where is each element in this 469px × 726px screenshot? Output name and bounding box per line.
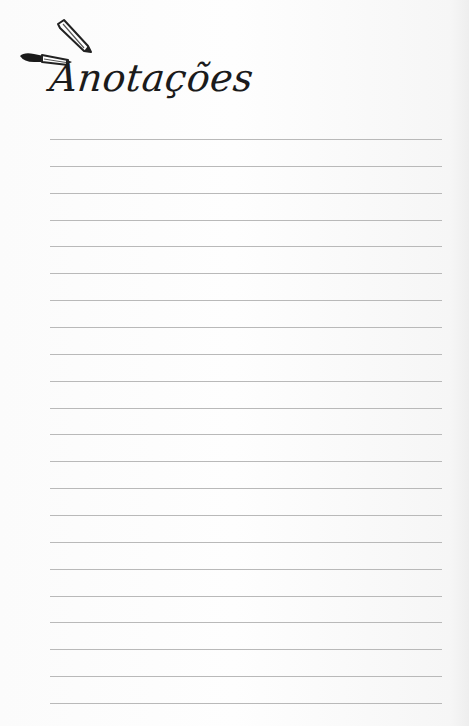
- ruled-line: [50, 166, 442, 167]
- ruled-line: [50, 703, 442, 704]
- ruled-line: [50, 327, 442, 328]
- ruled-line: [50, 461, 442, 462]
- ruled-lines: [50, 0, 442, 726]
- ruled-line: [50, 488, 442, 489]
- ruled-line: [50, 676, 442, 677]
- ruled-line: [50, 542, 442, 543]
- ruled-line: [50, 569, 442, 570]
- ruled-line: [50, 515, 442, 516]
- ruled-line: [50, 139, 442, 140]
- ruled-line: [50, 246, 442, 247]
- ruled-line: [50, 300, 442, 301]
- ruled-line: [50, 434, 442, 435]
- ruled-line: [50, 220, 442, 221]
- ruled-line: [50, 596, 442, 597]
- ruled-line: [50, 381, 442, 382]
- ruled-line: [50, 622, 442, 623]
- ruled-line: [50, 649, 442, 650]
- ruled-line: [50, 273, 442, 274]
- ruled-line: [50, 354, 442, 355]
- notes-page: Anotações: [0, 0, 469, 726]
- ruled-line: [50, 408, 442, 409]
- ruled-line: [50, 193, 442, 194]
